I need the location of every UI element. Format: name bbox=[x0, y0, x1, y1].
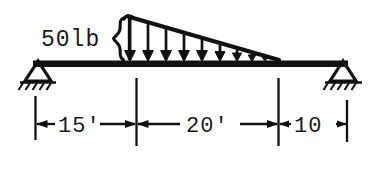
beam-diagram: 50lb 15' 20' 1 bbox=[0, 0, 371, 170]
dimension-label-1: 15' bbox=[58, 114, 101, 139]
load-arrow bbox=[125, 19, 136, 62]
beam-diagram-canvas: 50lb 15' 20' 1 bbox=[0, 0, 371, 170]
dimension-label-2: 20' bbox=[186, 114, 229, 139]
load-arrows bbox=[125, 19, 268, 62]
load-arrow bbox=[197, 39, 208, 62]
load-arrow bbox=[179, 34, 190, 62]
load-arrow bbox=[161, 29, 172, 62]
load-magnitude-label: 50lb bbox=[41, 27, 100, 53]
load-arrow bbox=[143, 24, 154, 62]
beam-member bbox=[33, 61, 348, 68]
load-brace-icon bbox=[114, 18, 125, 60]
dimension-label-3: 10 bbox=[294, 114, 322, 139]
